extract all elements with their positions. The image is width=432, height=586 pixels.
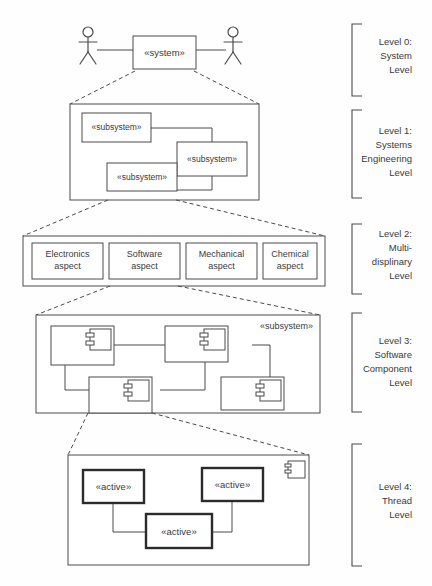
bracket-level-0: [352, 24, 362, 96]
svg-text:Level: Level: [389, 377, 412, 388]
svg-text:«active»: «active»: [96, 481, 131, 492]
svg-text:«subsystem»: «subsystem»: [187, 154, 237, 164]
svg-text:aspect: aspect: [277, 261, 304, 271]
svg-text:aspect: aspect: [208, 261, 235, 271]
decomposition-link-2-3: [36, 286, 320, 315]
component-box-1[interactable]: [51, 326, 114, 365]
component-box-3[interactable]: [89, 377, 152, 413]
decomposition-link-1-2: [23, 200, 325, 236]
svg-text:Level 0:: Level 0:: [379, 36, 412, 47]
svg-text:Chemical: Chemical: [271, 249, 309, 259]
svg-text:Level 3:: Level 3:: [379, 335, 412, 346]
decomposition-link-3-4: [68, 413, 309, 455]
svg-text:Level 1:: Level 1:: [379, 125, 412, 136]
component-icon: [200, 329, 225, 350]
decomposition-link-0-1: [70, 71, 259, 104]
svg-text:Thread: Thread: [382, 495, 412, 506]
svg-text:Level: Level: [389, 167, 412, 178]
svg-text:Software: Software: [127, 249, 163, 259]
level-0-label: Level 0: System Level: [379, 36, 412, 75]
svg-text:«subsystem»: «subsystem»: [91, 122, 141, 132]
component-icon: [124, 380, 149, 401]
bracket-level-2: [352, 224, 362, 294]
svg-text:Level 4:: Level 4:: [379, 481, 412, 492]
svg-text:Multi-: Multi-: [389, 242, 412, 253]
svg-text:System: System: [380, 50, 412, 61]
aspect-box-mechanical[interactable]: Mechanical aspect: [186, 243, 257, 279]
level-0-group: «system» Level 0: System Level: [79, 24, 412, 96]
svg-text:«subsystem»: «subsystem»: [117, 172, 167, 182]
svg-text:Systems: Systems: [376, 139, 413, 150]
level-2-group: Electronics aspect Software aspect Mecha…: [23, 224, 412, 294]
component-icon: [86, 329, 111, 350]
component-icon: [256, 380, 281, 401]
svg-text:«active»: «active»: [161, 526, 196, 537]
subsystem-box-3[interactable]: «subsystem»: [107, 163, 177, 191]
diagram-root: «system» Level 0: System Level «subsyste…: [0, 0, 432, 586]
level-1-group: «subsystem» «subsystem» «subsystem» Leve…: [70, 104, 412, 200]
svg-text:«active»: «active»: [215, 479, 250, 490]
level-3-label: Level 3: Software Component Level: [363, 335, 412, 388]
bracket-level-4: [352, 444, 362, 566]
system-box-label: «system»: [144, 47, 185, 58]
active-box-3[interactable]: «active»: [146, 514, 212, 548]
svg-text:Level: Level: [389, 509, 412, 520]
bracket-level-3: [352, 313, 362, 412]
aspect-box-software[interactable]: Software aspect: [109, 243, 180, 279]
level-1-label: Level 1: Systems Engineering Level: [361, 125, 412, 178]
level-3-subsystem-label: «subsystem»: [260, 321, 313, 331]
svg-text:Electronics: Electronics: [45, 249, 90, 259]
svg-text:Level: Level: [389, 64, 412, 75]
svg-text:Software: Software: [375, 349, 413, 360]
svg-text:aspect: aspect: [54, 261, 81, 271]
system-box[interactable]: «system»: [133, 36, 196, 69]
component-box-4[interactable]: [221, 377, 284, 410]
svg-text:Engineering: Engineering: [361, 153, 412, 164]
level-4-label: Level 4: Thread Level: [379, 481, 412, 520]
level-3-group: «subsystem»: [36, 313, 412, 413]
svg-text:Level 2:: Level 2:: [379, 228, 412, 239]
level-4-group: «active» «active» «active» Level 4: Thre…: [68, 444, 412, 566]
component-box-2[interactable]: [165, 326, 228, 362]
aspect-box-electronics[interactable]: Electronics aspect: [32, 243, 103, 279]
subsystem-box-2[interactable]: «subsystem»: [177, 142, 247, 176]
subsystem-box-1[interactable]: «subsystem»: [82, 113, 151, 142]
svg-text:Mechanical: Mechanical: [199, 249, 245, 259]
actor-right-icon: [224, 27, 242, 64]
active-box-2[interactable]: «active»: [202, 468, 263, 501]
svg-text:Level: Level: [389, 270, 412, 281]
svg-text:displinary: displinary: [372, 256, 412, 267]
layered-architecture-diagram: «system» Level 0: System Level «subsyste…: [0, 0, 432, 586]
actor-left-icon: [79, 27, 97, 64]
svg-text:aspect: aspect: [131, 261, 158, 271]
level-2-label: Level 2: Multi- displinary Level: [372, 228, 412, 281]
svg-text:Component: Component: [363, 363, 412, 374]
component-icon: [285, 461, 305, 478]
active-box-1[interactable]: «active»: [83, 470, 144, 503]
aspect-box-chemical[interactable]: Chemical aspect: [263, 243, 317, 279]
